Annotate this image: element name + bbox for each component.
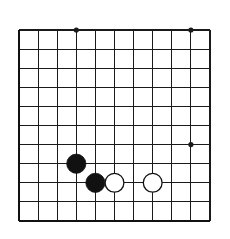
black-stone-1[interactable] xyxy=(67,154,86,173)
go-board-diagram xyxy=(0,0,230,239)
black-stone-2[interactable] xyxy=(86,173,105,192)
white-stone-1[interactable] xyxy=(105,173,124,192)
white-stone-2[interactable] xyxy=(143,173,162,192)
go-board-canvas[interactable] xyxy=(0,0,230,239)
star-point-top-right-icon xyxy=(188,27,193,32)
star-point-top-left-icon xyxy=(74,27,79,32)
star-point-right-icon xyxy=(188,142,193,147)
